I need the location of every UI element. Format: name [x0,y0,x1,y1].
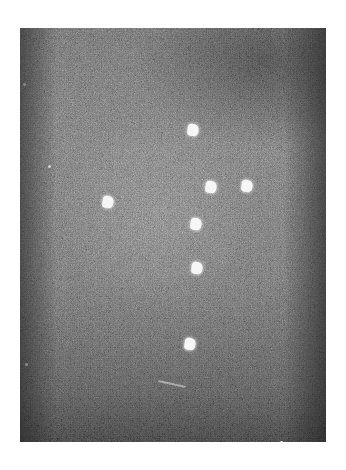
photograph [20,28,326,442]
dust-speck [48,165,51,168]
coarse-grain-texture [20,28,326,442]
dust-speck [23,83,26,86]
dust-speck [280,441,283,442]
dust-speck [25,363,28,366]
